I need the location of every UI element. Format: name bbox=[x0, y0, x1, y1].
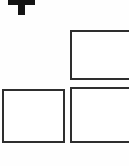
empty-box-bottom-left[interactable] bbox=[2, 89, 65, 143]
empty-box-bottom-right[interactable] bbox=[70, 87, 129, 143]
diagram-canvas bbox=[0, 0, 129, 166]
letter-t-stem bbox=[18, 4, 25, 15]
letter-t-icon bbox=[8, 0, 35, 15]
empty-box-top-right[interactable] bbox=[70, 30, 129, 80]
